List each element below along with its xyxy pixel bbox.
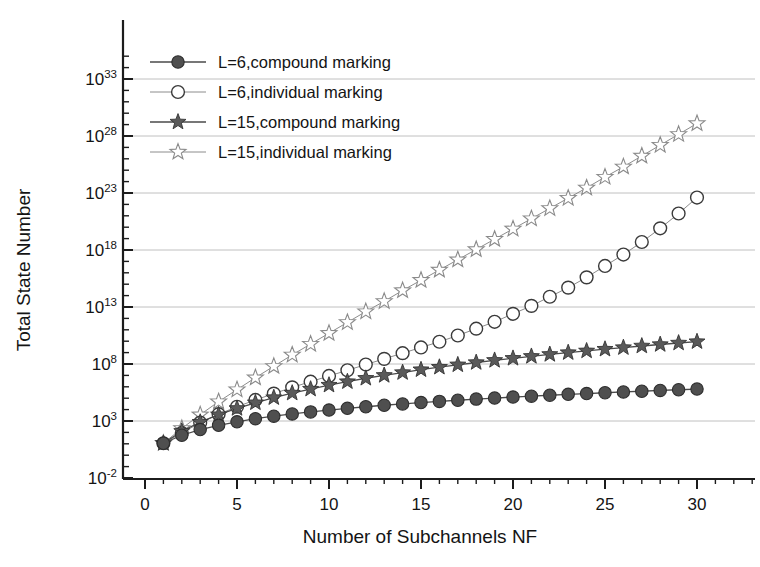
y-tick-label-4: 1018 (85, 239, 117, 260)
marker-series-3-12 (376, 293, 392, 308)
marker-series-3-16 (450, 251, 466, 266)
x-tick-label-6: 30 (688, 495, 707, 514)
marker-series-1-19 (507, 307, 520, 320)
marker-series-1-24 (599, 260, 612, 273)
marker-legend-2 (170, 114, 186, 129)
marker-legend-1 (172, 86, 185, 99)
y-tick-label-7: 1033 (85, 68, 117, 89)
data-series-group (155, 115, 705, 450)
marker-series-0-1 (176, 429, 188, 441)
marker-series-2-25 (615, 339, 631, 354)
marker-series-3-24 (597, 169, 613, 184)
marker-series-0-27 (654, 384, 666, 396)
marker-series-3-5 (247, 369, 263, 384)
marker-series-1-12 (378, 352, 391, 365)
marker-series-3-11 (358, 303, 374, 318)
marker-series-3-25 (615, 158, 631, 173)
marker-series-3-18 (487, 231, 503, 246)
x-tick-labels-group: 051015202530 (140, 495, 706, 514)
legend-item-0[interactable]: L=6,compound marking (150, 53, 391, 71)
marker-series-3-20 (523, 210, 539, 225)
y-ticks-group (123, 56, 133, 478)
marker-series-3-7 (284, 346, 300, 361)
marker-series-0-5 (249, 413, 261, 425)
series-line-3 (163, 123, 697, 443)
marker-series-1-27 (654, 222, 667, 235)
legend-label-0: L=6,compound marking (218, 53, 391, 71)
marker-series-0-3 (212, 419, 224, 431)
marker-series-1-20 (525, 299, 538, 312)
marker-series-2-16 (450, 356, 466, 371)
marker-series-1-21 (543, 290, 556, 303)
chart-canvas: 10-210310810131018102310281033 051015202… (0, 0, 760, 567)
marker-series-1-25 (617, 248, 630, 261)
marker-series-3-19 (505, 221, 521, 236)
marker-series-0-22 (562, 388, 574, 400)
marker-series-3-4 (229, 381, 245, 396)
x-tick-label-1: 5 (232, 495, 241, 514)
marker-series-1-22 (562, 281, 575, 294)
marker-series-0-11 (360, 401, 372, 413)
marker-series-3-15 (431, 262, 447, 277)
marker-series-0-13 (396, 398, 408, 410)
marker-series-0-24 (599, 387, 611, 399)
legend-item-3[interactable]: L=15,individual marking (150, 143, 392, 161)
marker-series-2-22 (560, 344, 576, 359)
marker-series-0-6 (268, 410, 280, 422)
figure-root: 10-210310810131018102310281033 051015202… (0, 0, 760, 567)
marker-series-3-28 (671, 126, 687, 141)
marker-series-2-27 (652, 336, 668, 351)
marker-series-0-4 (231, 416, 243, 428)
x-axis-title: Number of Subchannels NF (303, 526, 537, 547)
marker-series-1-26 (635, 236, 648, 249)
y-tick-label-3: 1013 (85, 296, 117, 317)
marker-series-1-14 (415, 341, 428, 354)
marker-series-0-25 (617, 386, 629, 398)
legend-label-2: L=15,compound marking (218, 113, 400, 131)
marker-series-2-21 (542, 346, 558, 361)
y-tick-label-6: 1028 (85, 125, 117, 146)
marker-series-0-9 (323, 404, 335, 416)
marker-series-2-12 (376, 367, 392, 382)
marker-series-1-15 (433, 335, 446, 348)
legend-item-2[interactable]: L=15,compound marking (150, 113, 400, 131)
marker-series-0-2 (194, 423, 206, 435)
marker-series-2-23 (579, 342, 595, 357)
marker-series-3-13 (395, 282, 411, 297)
marker-series-0-21 (544, 389, 556, 401)
marker-series-0-28 (672, 384, 684, 396)
marker-series-3-27 (652, 137, 668, 152)
y-tick-label-2: 108 (92, 353, 117, 374)
marker-series-3-10 (339, 314, 355, 329)
marker-series-3-6 (266, 358, 282, 373)
marker-series-0-16 (452, 394, 464, 406)
x-tick-label-4: 20 (504, 495, 523, 514)
marker-series-1-16 (451, 329, 464, 342)
marker-series-2-18 (487, 352, 503, 367)
x-tick-label-0: 0 (140, 495, 149, 514)
y-tick-label-1: 103 (92, 410, 117, 431)
marker-series-0-20 (525, 390, 537, 402)
marker-series-3-14 (413, 272, 429, 287)
marker-series-0-18 (488, 392, 500, 404)
marker-series-0-8 (304, 406, 316, 418)
marker-legend-3 (170, 144, 186, 159)
y-tick-labels-group: 10-210310810131018102310281033 (85, 68, 117, 488)
y-tick-label-0: 10-2 (88, 467, 117, 488)
marker-series-0-26 (636, 385, 648, 397)
marker-series-0-7 (286, 408, 298, 420)
chart-legend: L=6,compound markingL=6,individual marki… (150, 53, 400, 161)
marker-series-0-12 (378, 399, 390, 411)
marker-series-3-26 (634, 148, 650, 163)
marker-series-1-18 (488, 315, 501, 328)
marker-series-3-22 (560, 190, 576, 205)
marker-series-2-17 (468, 354, 484, 369)
marker-series-0-15 (433, 395, 445, 407)
marker-series-3-23 (579, 179, 595, 194)
marker-series-1-29 (691, 191, 704, 204)
marker-series-1-13 (396, 347, 409, 360)
y-tick-label-5: 1023 (85, 182, 117, 203)
legend-item-1[interactable]: L=6,individual marking (150, 83, 383, 101)
marker-series-2-28 (671, 335, 687, 350)
legend-label-1: L=6,individual marking (218, 83, 383, 101)
